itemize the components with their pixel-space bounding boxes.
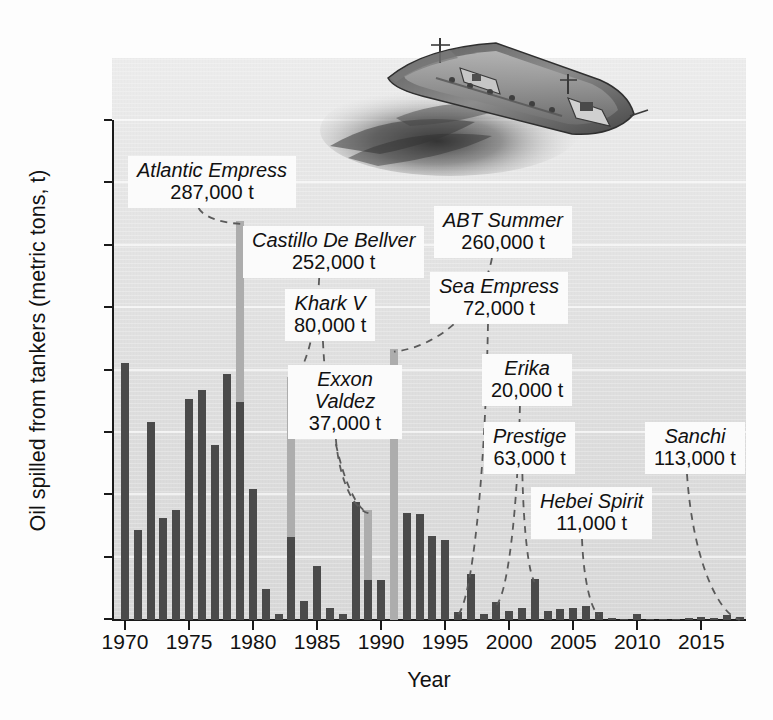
bar bbox=[467, 574, 475, 620]
bar-base-segment bbox=[595, 612, 603, 620]
bar bbox=[595, 612, 603, 620]
bar bbox=[441, 540, 449, 620]
bar bbox=[723, 615, 731, 620]
annotation-amount: 72,000 t bbox=[439, 297, 559, 319]
x-tick-label: 1995 bbox=[422, 630, 469, 654]
bar bbox=[300, 601, 308, 620]
bar bbox=[211, 445, 219, 620]
bar bbox=[364, 510, 372, 620]
annotation-amount: 287,000 t bbox=[137, 181, 287, 203]
y-tick bbox=[104, 493, 112, 495]
annotation-callout: Sea Empress72,000 t bbox=[430, 272, 568, 324]
bar-base-segment bbox=[531, 579, 539, 620]
annotation-amount: 252,000 t bbox=[252, 251, 415, 273]
annotation-amount: 20,000 t bbox=[491, 379, 563, 401]
annotation-vessel-name: ABT Summer bbox=[443, 209, 563, 231]
annotation-amount: 11,000 t bbox=[540, 512, 643, 534]
annotation-amount: 63,000 t bbox=[493, 447, 566, 469]
bar bbox=[736, 617, 744, 620]
y-tick bbox=[104, 181, 112, 183]
annotation-amount: 37,000 t bbox=[297, 412, 393, 434]
annotation-callout: Erika20,000 t bbox=[482, 354, 572, 406]
x-tick-label: 1970 bbox=[102, 630, 149, 654]
bar bbox=[275, 614, 283, 620]
x-tick-label: 2005 bbox=[550, 630, 597, 654]
annotation-vessel-name: Exxon Valdez bbox=[297, 368, 393, 412]
y-axis-title: Oil spilled from tankers (metric tons, t… bbox=[26, 116, 51, 586]
bar bbox=[185, 399, 193, 620]
x-tick bbox=[316, 621, 318, 630]
bar bbox=[428, 536, 436, 620]
bar bbox=[236, 221, 244, 620]
x-tick-label: 2015 bbox=[678, 630, 725, 654]
bar-base-segment bbox=[364, 580, 372, 620]
bar bbox=[403, 513, 411, 620]
bar bbox=[569, 608, 577, 620]
bar bbox=[531, 579, 539, 620]
y-tick bbox=[104, 556, 112, 558]
bar bbox=[697, 617, 705, 620]
bar bbox=[454, 612, 462, 620]
bar bbox=[121, 363, 129, 620]
annotation-vessel-name: Sea Empress bbox=[439, 275, 559, 297]
y-tick bbox=[104, 431, 112, 433]
bar bbox=[544, 611, 552, 620]
annotation-amount: 80,000 t bbox=[294, 314, 366, 336]
y-tick bbox=[104, 369, 112, 371]
bar bbox=[492, 602, 500, 620]
x-tick bbox=[188, 621, 190, 630]
annotation-vessel-name: Khark V bbox=[294, 292, 366, 314]
annotation-amount: 260,000 t bbox=[443, 231, 563, 253]
annotation-callout: Khark V80,000 t bbox=[285, 289, 375, 341]
chart-figure: 0100200300400500600700800 19701975198019… bbox=[0, 0, 773, 720]
bar-base-segment bbox=[492, 602, 500, 620]
annotation-vessel-name: Erika bbox=[491, 357, 563, 379]
annotation-vessel-name: Atlantic Empress bbox=[137, 159, 287, 181]
y-tick bbox=[104, 306, 112, 308]
bar bbox=[672, 619, 680, 620]
annotation-vessel-name: Prestige bbox=[493, 425, 566, 447]
bar bbox=[352, 502, 360, 621]
x-tick-label: 1985 bbox=[294, 630, 341, 654]
x-tick bbox=[572, 621, 574, 630]
x-tick-label: 1990 bbox=[358, 630, 405, 654]
x-tick bbox=[700, 621, 702, 630]
bar bbox=[480, 614, 488, 620]
annotation-callout: Prestige63,000 t bbox=[484, 422, 575, 474]
x-tick-label: 1975 bbox=[166, 630, 213, 654]
x-tick-label: 2000 bbox=[486, 630, 533, 654]
annotation-vessel-name: Castillo De Bellver bbox=[252, 229, 415, 251]
bar bbox=[313, 566, 321, 620]
bar-base-segment bbox=[736, 617, 744, 620]
annotation-callout: Castillo De Bellver252,000 t bbox=[243, 226, 424, 278]
x-tick bbox=[636, 621, 638, 630]
bar bbox=[582, 606, 590, 620]
x-tick bbox=[444, 621, 446, 630]
bar bbox=[620, 619, 628, 620]
bar bbox=[172, 510, 180, 620]
bar bbox=[659, 619, 667, 620]
annotation-vessel-name: Sanchi bbox=[654, 425, 736, 447]
bar bbox=[326, 608, 334, 620]
annotation-vessel-name: Hebei Spirit bbox=[540, 490, 643, 512]
annotation-callout: Exxon Valdez37,000 t bbox=[288, 365, 402, 439]
x-tick bbox=[124, 621, 126, 630]
bar bbox=[262, 589, 270, 620]
x-tick-label: 2010 bbox=[614, 630, 661, 654]
bar bbox=[134, 530, 142, 620]
x-tick bbox=[252, 621, 254, 630]
bar bbox=[147, 422, 155, 620]
bar-base-segment bbox=[236, 402, 244, 620]
y-tick bbox=[104, 618, 112, 620]
annotation-callout: Atlantic Empress287,000 t bbox=[128, 156, 296, 208]
bar bbox=[223, 374, 231, 620]
x-tick bbox=[380, 621, 382, 630]
bar bbox=[339, 614, 347, 620]
bar bbox=[518, 608, 526, 620]
bar bbox=[249, 489, 257, 620]
bar bbox=[633, 614, 641, 620]
bar bbox=[646, 619, 654, 620]
annotation-callout: Sanchi113,000 t bbox=[645, 422, 745, 474]
bar bbox=[377, 580, 385, 620]
bar bbox=[556, 609, 564, 620]
